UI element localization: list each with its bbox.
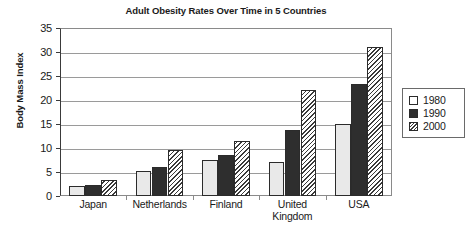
bar (168, 150, 184, 196)
legend-item[interactable]: 2000 (409, 120, 459, 132)
x-tick-label: Japan (60, 199, 126, 211)
chart-title: Adult Obesity Rates Over Time in 5 Count… (60, 5, 392, 16)
bar (351, 84, 367, 196)
y-tick-mark (56, 124, 60, 125)
legend-swatch (409, 122, 418, 131)
y-tick-mark (56, 172, 60, 173)
bar-group (259, 28, 325, 196)
bar (301, 90, 317, 196)
bar (69, 186, 85, 196)
x-tick-label: Netherlands (126, 199, 192, 211)
y-axis-tick-labels: 05101520253035 (0, 28, 60, 196)
y-tick-mark (56, 52, 60, 53)
legend-label: 1990 (423, 107, 446, 119)
bar (85, 185, 101, 196)
y-tick-label: 15 (6, 118, 52, 130)
y-tick-mark (56, 196, 60, 197)
bar-chart-figure: Adult Obesity Rates Over Time in 5 Count… (0, 0, 476, 239)
legend-swatch (409, 109, 418, 118)
bar (202, 160, 218, 196)
y-tick-label: 25 (6, 70, 52, 82)
y-tick-mark (56, 100, 60, 101)
bar (101, 180, 117, 196)
bar (285, 130, 301, 196)
bar (335, 124, 351, 196)
y-tick-label: 30 (6, 46, 52, 58)
x-axis-tick-labels: JapanNetherlandsFinlandUnitedKingdomUSA (60, 199, 392, 239)
legend-label: 2000 (423, 120, 446, 132)
bar-group (126, 28, 192, 196)
y-tick-label: 20 (6, 94, 52, 106)
legend-item[interactable]: 1990 (409, 107, 459, 119)
bar-group (326, 28, 392, 196)
legend-swatch (409, 96, 418, 105)
y-tick-mark (56, 76, 60, 77)
bar (367, 47, 383, 196)
y-tick-label: 10 (6, 142, 52, 154)
x-tick-label: Finland (193, 199, 259, 211)
y-tick-mark (56, 148, 60, 149)
y-tick-label: 0 (6, 190, 52, 202)
bar (136, 171, 152, 196)
bar (234, 141, 250, 196)
x-tick-label: USA (326, 199, 392, 211)
bar-group (60, 28, 126, 196)
bars-layer (60, 28, 392, 196)
bar-group (193, 28, 259, 196)
y-tick-label: 35 (6, 22, 52, 34)
y-tick-label: 5 (6, 166, 52, 178)
bar (152, 167, 168, 196)
x-tick-label: UnitedKingdom (259, 199, 325, 222)
chart-legend[interactable]: 198019902000 (402, 88, 465, 138)
legend-item[interactable]: 1980 (409, 94, 459, 106)
bar (218, 155, 234, 196)
bar (269, 162, 285, 196)
y-tick-mark (56, 28, 60, 29)
legend-label: 1980 (423, 94, 446, 106)
